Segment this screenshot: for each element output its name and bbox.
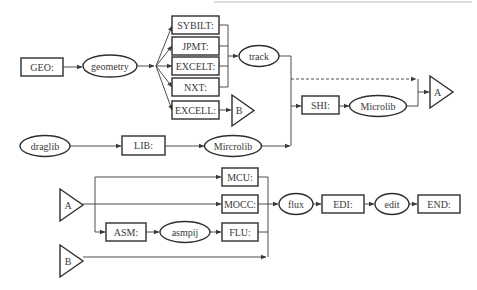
node-mircrolib: Mircrolib (205, 136, 262, 157)
node-jpmt-label: JPMT: (182, 41, 209, 52)
node-flu: FLU: (222, 223, 258, 241)
node-lib: LIB: (122, 136, 165, 155)
node-track: track (239, 46, 279, 67)
node-excelt: EXCELT: (172, 57, 219, 75)
node-shi: SHI: (302, 96, 339, 114)
node-geometry-label: geometry (91, 61, 129, 72)
trunk-to-shi (279, 56, 301, 146)
merge-to-a (407, 79, 429, 106)
node-asmpij-label: asmpij (172, 227, 199, 238)
node-edi: EDI: (322, 195, 364, 213)
node-track-label: track (249, 51, 269, 62)
node-draglib-label: draglib (31, 141, 59, 152)
node-edit: edit (375, 194, 409, 215)
connector-a-top-label: A (434, 87, 442, 98)
connector-a-top: A (430, 76, 453, 108)
node-sybilt: SYBILT: (172, 16, 219, 34)
node-draglib: draglib (20, 136, 70, 157)
node-edi-label: EDI: (333, 199, 352, 210)
node-asm: ASM: (106, 223, 146, 241)
node-nxt-label: NXT: (184, 82, 207, 93)
connector-b-top-label: B (236, 105, 243, 116)
node-lib-label: LIB: (134, 140, 153, 151)
node-mircrolib-label: Mircrolib (214, 141, 252, 152)
connector-a-bottom: A (60, 189, 83, 221)
node-microlib: Microlib (350, 96, 407, 117)
node-geo: GEO: (21, 58, 63, 76)
node-microlib-label: Microlib (361, 101, 396, 112)
node-edit-label: edit (385, 199, 400, 210)
node-asm-label: ASM: (114, 227, 138, 238)
node-nxt: NXT: (172, 78, 219, 96)
connector-b-bottom-label: B (65, 256, 72, 267)
node-mcu: MCU: (222, 168, 258, 186)
node-asmpij: asmpij (160, 222, 210, 243)
node-geometry: geometry (83, 55, 137, 77)
node-mcu-label: MCU: (227, 172, 253, 183)
node-jpmt: JPMT: (172, 37, 219, 55)
node-end-label: END: (427, 199, 450, 210)
flowchart-canvas: GEO: geometry SYBILT: JPMT: EXCELT: NXT:… (0, 0, 477, 290)
node-mocc: MOCC: (222, 195, 258, 213)
node-excell: EXCELL: (172, 101, 219, 119)
node-flu-label: FLU: (229, 227, 251, 238)
node-end: END: (418, 195, 460, 213)
node-geo-label: GEO: (30, 62, 53, 73)
node-sybilt-label: SYBILT: (177, 20, 213, 31)
bracket-to-track (219, 25, 238, 87)
node-shi-label: SHI: (311, 100, 330, 111)
node-mocc-label: MOCC: (224, 199, 256, 210)
connector-b-bottom: B (60, 245, 83, 277)
connector-a-bottom-label: A (64, 200, 72, 211)
node-flux: flux (279, 194, 313, 215)
node-excell-label: EXCELL: (175, 105, 216, 116)
node-flux-label: flux (288, 199, 304, 210)
collector-to-flux (258, 177, 278, 257)
fan-out-edges (156, 26, 172, 110)
node-excelt-label: EXCELT: (176, 61, 216, 72)
connector-b-top: B (232, 95, 254, 126)
